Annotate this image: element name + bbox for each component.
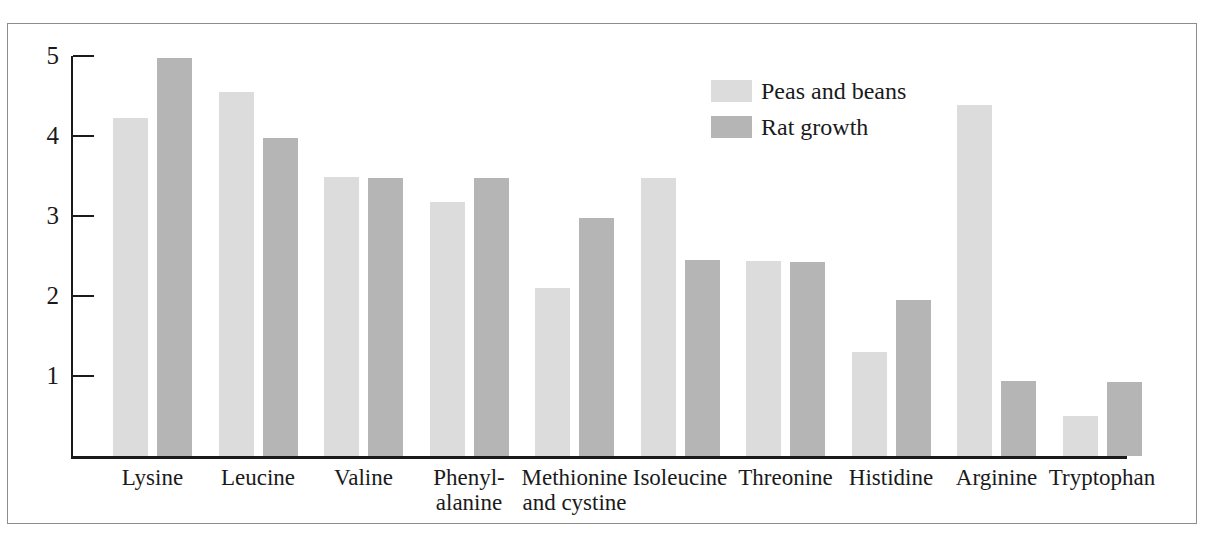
x-axis-category-label: Tryptophan [1032,465,1172,490]
plot-area: 12345 LysineLeucineValinePhenyl- alanine… [8,24,1198,525]
y-axis-label-1: 1 [25,363,59,388]
bar-arginine-rat-growth [1001,381,1036,456]
bar-leucine-rat-growth [263,138,298,456]
bar-phenylalanine-peas-and-beans [430,202,465,456]
bar-valine-peas-and-beans [324,177,359,456]
bar-isoleucine-rat-growth [685,260,720,456]
dark-gray-swatch [711,116,752,138]
y-axis-tick-3 [73,215,94,217]
y-axis-label-5: 5 [25,43,59,68]
y-axis-tick-2 [73,295,94,297]
light-gray-swatch [711,80,752,102]
bar-valine-rat-growth [368,178,403,456]
bar-lysine-peas-and-beans [113,118,148,456]
bar-lysine-rat-growth [157,58,192,456]
bar-histidine-rat-growth [896,300,931,456]
bar-threonine-rat-growth [790,262,825,456]
figure-frame: 12345 LysineLeucineValinePhenyl- alanine… [7,23,1197,524]
legend-label: Rat growth [761,115,868,139]
legend-item-rat-growth: Rat growth [711,112,906,142]
bar-leucine-peas-and-beans [219,92,254,456]
y-axis-label-4: 4 [25,123,59,148]
chart-legend: Peas and beansRat growth [711,76,906,148]
y-axis-label-2: 2 [25,283,59,308]
bar-arginine-peas-and-beans [957,105,992,456]
bar-threonine-peas-and-beans [746,261,781,456]
bar-methionineandcystine-rat-growth [579,218,614,456]
bar-tryptophan-rat-growth [1107,382,1142,456]
bar-tryptophan-peas-and-beans [1063,416,1098,456]
bar-phenylalanine-rat-growth [474,178,509,456]
bar-isoleucine-peas-and-beans [641,178,676,456]
y-axis-tick-1 [73,375,94,377]
bar-methionineandcystine-peas-and-beans [535,288,570,456]
y-axis-tick-4 [73,135,94,137]
y-axis-line [71,56,73,456]
bar-histidine-peas-and-beans [852,352,887,456]
y-axis-tick-5 [73,55,94,57]
y-axis-label-3: 3 [25,203,59,228]
scan-caption-strip [0,0,1206,16]
x-axis-line [71,456,1127,459]
legend-label: Peas and beans [761,79,906,103]
legend-item-peas-and-beans: Peas and beans [711,76,906,106]
